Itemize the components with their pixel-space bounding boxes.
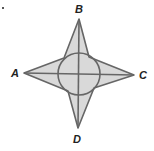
label-b: B — [75, 3, 83, 15]
label-a: A — [11, 67, 19, 79]
label-d: D — [73, 133, 81, 145]
label-c: C — [139, 69, 147, 81]
star-figure — [0, 0, 154, 151]
